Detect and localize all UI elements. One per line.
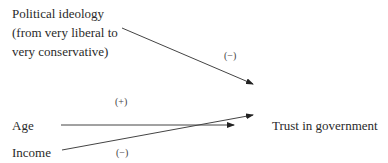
arrows — [0, 0, 388, 163]
arrow-income-to-trust — [62, 115, 253, 150]
sign-ideology: (−) — [224, 50, 236, 61]
sign-age: (+) — [115, 96, 127, 107]
sign-income: (−) — [116, 147, 128, 158]
